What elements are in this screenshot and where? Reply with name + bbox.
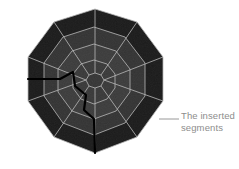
mesh-body bbox=[28, 9, 179, 154]
annotation-label: The inserted segments bbox=[181, 110, 239, 133]
decagon-mesh-figure bbox=[0, 0, 239, 169]
figure-screenshot: The inserted segments bbox=[0, 0, 239, 169]
